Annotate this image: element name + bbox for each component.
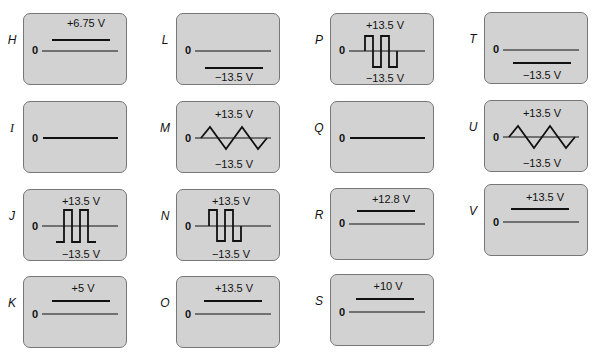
zero-label: 0 [339,132,345,144]
panel-L: L 0 −13.5 V [153,1,303,89]
zero-label: 0 [185,308,191,320]
panel-letter: V [465,204,481,218]
panel-letter: L [157,33,173,47]
panel-S: S +10 V 0 [307,262,457,350]
scope-screen: +6.75 V 0 [23,13,127,85]
waveform-dc-positive: +10 V 0 [331,275,435,347]
panel-K: K +5 V 0 [0,264,150,352]
scope-screen: 0 [23,101,127,173]
panel-letter: M [157,121,173,135]
top-voltage-label: +5 V [72,282,96,294]
panel-U: U +13.5 V 0 −13.5 V [461,88,596,176]
panel-J: J +13.5 V 0 −13.5 V [0,177,150,265]
waveform-square-pulses: +13.5 V 0 −13.5 V [24,190,128,262]
waveform-square-bipolar: +13.5 V 0 −13.5 V [177,190,281,262]
panel-H: H +6.75 V 0 [0,1,150,89]
top-voltage-label: +13.5 V [212,195,251,207]
panel-letter: O [157,296,173,310]
scope-screen: +13.5 V 0 −13.5 V [23,189,127,261]
panel-P: P +13.5 V 0 −13.5 V [307,1,457,89]
scope-screen: +13.5 V 0 −13.5 V [176,189,280,261]
panel-V: V +13.5 V 0 [461,172,596,260]
scope-screen: +13.5 V 0 −13.5 V [484,100,588,172]
zero-label: 0 [339,306,345,318]
panel-letter: K [4,296,20,310]
waveform-triangle: +13.5 V 0 −13.5 V [485,101,589,173]
zero-label: 0 [339,44,345,56]
panel-letter: S [311,294,327,308]
scope-screen: +10 V 0 [330,274,434,346]
top-voltage-label: +13.5 V [215,282,254,294]
scope-screen: +13.5 V 0 [176,276,280,348]
panel-letter: R [311,208,327,222]
panel-M: M +13.5 V 0 −13.5 V [153,89,303,177]
top-voltage-label: +12.8 V [372,193,411,205]
panel-Q: Q 0 [307,89,457,177]
panel-letter: U [465,120,481,134]
zero-label: 0 [493,216,499,228]
scope-screen: 0 −13.5 V [484,12,588,84]
panel-letter: I [4,121,20,136]
bottom-voltage-label: −13.5 V [366,72,405,84]
waveform-zero: 0 [24,102,128,174]
bottom-voltage-label: −13.5 V [523,157,562,169]
top-voltage-label: +13.5 V [366,19,405,31]
waveform-dc-negative: 0 −13.5 V [177,14,281,86]
zero-label: 0 [185,220,191,232]
panel-T: T 0 −13.5 V [461,0,596,88]
panel-letter: J [4,209,20,223]
zero-label: 0 [185,44,191,56]
zero-label: 0 [339,217,345,229]
bottom-voltage-label: −13.5 V [523,69,562,81]
zero-label: 0 [493,131,499,143]
waveform-dc-positive: +13.5 V 0 [177,277,281,349]
zero-label: 0 [185,132,191,144]
panel-letter: H [4,33,20,47]
zero-label: 0 [32,132,38,144]
panel-R: R +12.8 V 0 [307,176,457,264]
bottom-voltage-label: −13.5 V [62,248,101,260]
scope-screen: +13.5 V 0 [484,184,588,256]
zero-label: 0 [32,308,38,320]
scope-screen: +13.5 V 0 −13.5 V [176,101,280,173]
panel-letter: T [465,32,481,46]
bottom-voltage-label: −13.5 V [215,158,254,170]
zero-label: 0 [32,220,38,232]
top-voltage-label: +6.75 V [67,17,106,29]
zero-label: 0 [493,43,499,55]
panel-letter: P [311,33,327,47]
bottom-voltage-label: −13.5 V [215,71,254,83]
waveform-square-bipolar: +13.5 V 0 −13.5 V [331,14,435,86]
top-voltage-label: +13.5 V [62,195,101,207]
top-voltage-label: +13.5 V [523,107,562,119]
panel-letter: N [157,209,173,223]
waveform-dc-negative: 0 −13.5 V [485,13,589,85]
top-voltage-label: +10 V [373,280,403,292]
waveform-dc-positive: +6.75 V 0 [24,14,128,86]
waveform-dc-positive: +5 V 0 [24,277,128,349]
panel-N: N +13.5 V 0 −13.5 V [153,177,303,265]
waveform-dc-positive: +13.5 V 0 [485,185,589,257]
scope-screen: 0 [330,101,434,173]
bottom-voltage-label: −13.5 V [212,248,251,260]
scope-screen: +5 V 0 [23,276,127,348]
waveform-dc-positive: +12.8 V 0 [331,189,435,261]
panel-letter: Q [311,121,327,135]
scope-screen: +12.8 V 0 [330,188,434,260]
scope-screen: 0 −13.5 V [176,13,280,85]
scope-screen: +13.5 V 0 −13.5 V [330,13,434,85]
panel-O: O +13.5 V 0 [153,264,303,352]
waveform-zero: 0 [331,102,435,174]
top-voltage-label: +13.5 V [215,108,254,120]
waveform-triangle: +13.5 V 0 −13.5 V [177,102,281,174]
panel-I: I 0 [0,89,150,177]
zero-label: 0 [32,44,38,56]
top-voltage-label: +13.5 V [526,191,565,203]
